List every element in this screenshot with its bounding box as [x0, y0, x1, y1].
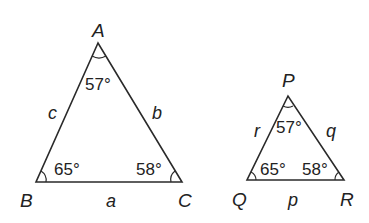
side-label-a: a [106, 191, 116, 211]
vertex-label-b: B [20, 190, 33, 211]
angle-arc-b [41, 171, 46, 182]
similar-triangles-diagram: A B C a b c 57° 65° 58° P Q R p q r 57° … [0, 0, 369, 223]
vertex-label-q: Q [232, 189, 247, 210]
angle-arc-r [335, 172, 339, 180]
angle-label-b: 65° [54, 160, 80, 179]
side-label-c: c [48, 103, 57, 123]
vertex-label-a: A [91, 20, 105, 41]
vertex-label-p: P [282, 70, 295, 91]
side-label-b: b [152, 103, 162, 123]
vertex-label-c: C [178, 190, 192, 211]
side-label-p: p [287, 190, 298, 210]
angle-label-p: 57° [276, 118, 302, 137]
angle-label-q: 65° [260, 160, 286, 179]
triangle-abc: A B C a b c 57° 65° 58° [20, 20, 192, 211]
vertex-label-r: R [340, 189, 354, 210]
angle-label-c: 58° [136, 160, 162, 179]
angle-arc-p [283, 106, 293, 107]
side-label-q: q [326, 121, 336, 141]
triangle-pqr: P Q R p q r 57° 65° 58° [232, 70, 354, 210]
angle-arc-a [92, 56, 106, 58]
angle-arc-q [251, 172, 256, 180]
angle-label-a: 57° [85, 75, 111, 94]
angle-arc-c [171, 171, 175, 182]
side-label-r: r [254, 121, 261, 141]
angle-label-r: 58° [302, 160, 328, 179]
